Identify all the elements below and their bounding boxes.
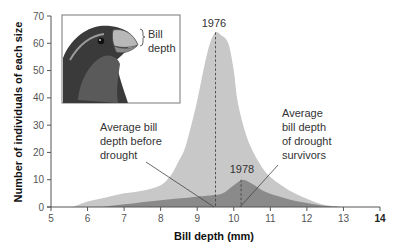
inset-label-depth: depth <box>148 42 176 54</box>
after-line-3: of drought <box>282 135 332 147</box>
label-1978: 1978 <box>230 163 254 175</box>
inset-label-bill: Bill <box>148 28 163 40</box>
bill-depth-chart: 010203040506070567891011121314 Bill dept… <box>0 0 398 251</box>
x-tick-label: 13 <box>338 213 350 224</box>
label-1976: 1976 <box>202 17 226 29</box>
x-tick-label: 12 <box>301 213 313 224</box>
y-tick-label: 40 <box>33 92 45 103</box>
x-tick-label: 14 <box>374 213 386 224</box>
y-tick-label: 50 <box>33 65 45 76</box>
y-tick-label: 30 <box>33 120 45 131</box>
after-line-2: bill depth <box>282 121 326 133</box>
y-tick-label: 60 <box>33 38 45 49</box>
y-axis-title: Number of individuals of each size <box>12 22 24 203</box>
y-tick-label: 0 <box>38 202 44 213</box>
before-line-3: drought <box>100 149 137 161</box>
x-axis-title: Bill depth (mm) <box>174 230 254 242</box>
x-tick-label: 10 <box>228 213 240 224</box>
x-tick-label: 7 <box>121 213 127 224</box>
x-tick-label: 8 <box>158 213 164 224</box>
y-tick-label: 70 <box>33 11 45 22</box>
after-line-4: survivors <box>282 149 327 161</box>
x-tick-label: 11 <box>265 213 276 224</box>
finch-inset: Bill depth <box>62 15 180 103</box>
before-line-2: depth before <box>100 135 162 147</box>
x-tick-label: 5 <box>48 213 54 224</box>
y-tick-label: 20 <box>33 147 45 158</box>
y-tick-label: 10 <box>33 174 45 185</box>
before-line-1: Average bill <box>100 121 157 133</box>
x-tick-label: 6 <box>85 213 91 224</box>
x-tick-label: 9 <box>194 213 200 224</box>
after-line-1: Average <box>282 107 323 119</box>
